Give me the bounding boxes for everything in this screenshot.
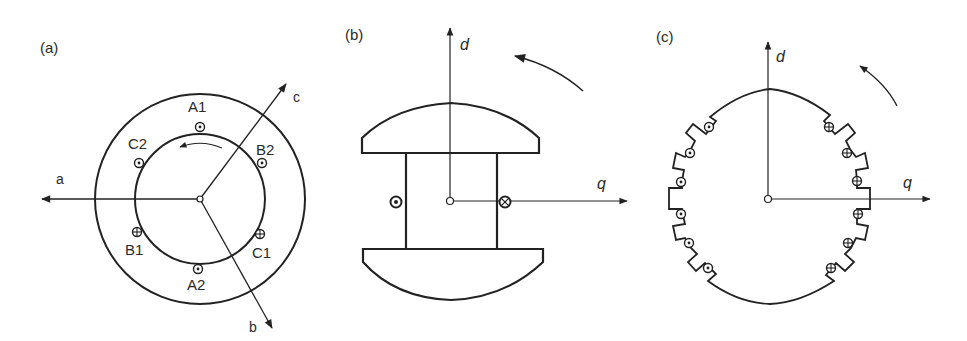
panel-a: (a) a c b A1 C2 B2 B1 C1 A2 bbox=[40, 39, 305, 335]
axis-label-d: d bbox=[776, 48, 786, 65]
figure-canvas: (a) a c b A1 C2 B2 B1 C1 A2 (b) bbox=[0, 0, 967, 341]
axis-label-q: q bbox=[597, 175, 606, 192]
conductor-B2-dot-icon bbox=[258, 159, 267, 168]
axis-label-c: c bbox=[293, 89, 300, 105]
conductor-C2-dot-icon bbox=[135, 159, 144, 168]
slot-conductor-dot-icon bbox=[704, 264, 713, 273]
panel-b: (b) d q bbox=[345, 26, 627, 300]
slot-conductor-dot-icon bbox=[677, 178, 686, 187]
conductor-label-A1: A1 bbox=[188, 98, 206, 115]
axis-label-b: b bbox=[249, 319, 257, 335]
slot-conductor-cross-icon bbox=[853, 177, 862, 186]
conductor-label-B2: B2 bbox=[256, 141, 274, 158]
center-point bbox=[197, 196, 203, 202]
conductor-C1-cross-icon bbox=[256, 230, 265, 239]
conductor-A1-dot-icon bbox=[196, 123, 205, 132]
field-conductor-dot-icon bbox=[391, 197, 402, 208]
conductor-label-A2: A2 bbox=[187, 276, 205, 293]
axis-label-d: d bbox=[460, 36, 470, 53]
field-conductor-cross-icon bbox=[500, 197, 511, 208]
center-point bbox=[765, 196, 772, 203]
conductor-label-B1: B1 bbox=[125, 241, 143, 258]
panel-label-c: (c) bbox=[656, 28, 674, 45]
slot-conductor-cross-icon bbox=[844, 239, 853, 248]
slot-conductor-dot-icon bbox=[677, 210, 686, 219]
panel-c: (c) d q bbox=[656, 28, 930, 304]
slot-conductor-cross-icon bbox=[843, 149, 852, 158]
slot-conductor-dot-icon bbox=[685, 239, 694, 248]
rotation-arrow-icon bbox=[180, 143, 222, 148]
conductor-B1-cross-icon bbox=[133, 228, 142, 237]
slot-conductor-dot-icon bbox=[705, 123, 714, 132]
slot-conductor-cross-icon bbox=[825, 123, 834, 132]
slot-conductor-cross-icon bbox=[854, 210, 863, 219]
rotation-arrow-icon bbox=[860, 66, 897, 106]
center-point bbox=[447, 198, 454, 205]
conductor-A2-dot-icon bbox=[194, 265, 203, 274]
slot-conductor-cross-icon bbox=[827, 264, 836, 273]
conductor-label-C1: C1 bbox=[252, 244, 271, 261]
slot-conductor-dot-icon bbox=[686, 149, 695, 158]
panel-label-b: (b) bbox=[345, 26, 363, 43]
conductor-label-C2: C2 bbox=[128, 135, 147, 152]
panel-label-a: (a) bbox=[40, 39, 58, 56]
rotation-arrow-icon bbox=[515, 56, 583, 91]
axis-label-a: a bbox=[56, 171, 64, 187]
bottom-pole-shoe bbox=[363, 249, 543, 300]
axis-label-q: q bbox=[903, 174, 912, 191]
